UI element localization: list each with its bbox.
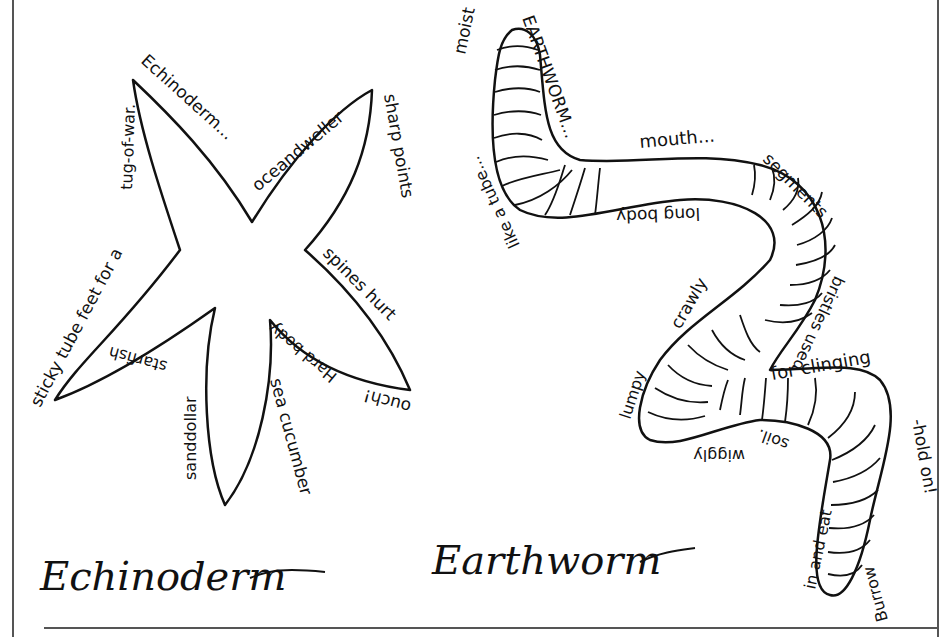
drawing-canvas: Echinoderm... oceandweller sharp points … (0, 0, 949, 637)
label-tug-of-war: tug-of-war. (117, 103, 139, 190)
worksheet-page: Echinoderm... oceandweller sharp points … (0, 0, 949, 637)
label-wiggly: wiggly (693, 446, 745, 465)
label-moist: moist (449, 5, 478, 56)
label-burrow: Burrow (859, 564, 892, 624)
label-sea-cucumber: sea cucumber (266, 376, 316, 497)
caption-echinoderm: Echinoderm (39, 553, 286, 599)
label-long-body: long body (616, 204, 701, 227)
label-mouth: mouth... (639, 124, 716, 152)
label-sharp-points: sharp points (380, 92, 418, 199)
label-soil: soil. (755, 425, 792, 454)
caption-earthworm: Earthworm (431, 537, 661, 583)
label-sand-dollar: sanddollar (181, 396, 200, 480)
label-hold-on: -hold on! (908, 417, 941, 496)
